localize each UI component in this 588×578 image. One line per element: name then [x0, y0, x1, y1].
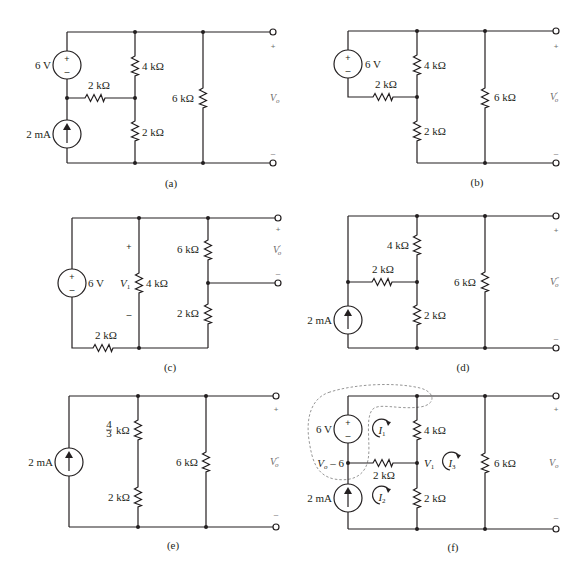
- resistor-6k-icon: [200, 85, 207, 111]
- resistor-6k-icon: [482, 269, 489, 295]
- svg-text:–: –: [554, 149, 559, 158]
- svg-text:–: –: [554, 334, 559, 343]
- label-2k-series: 2 kΩ: [88, 79, 110, 91]
- label-6v: 6 V: [35, 59, 51, 71]
- svg-text:kΩ: kΩ: [116, 424, 130, 436]
- output-terminal-minus: [275, 280, 281, 286]
- label-2k-series: 2 kΩ: [372, 263, 394, 275]
- resistor-6k-icon: [205, 237, 212, 263]
- panel-c: + – 6 V V1 + – 4 kΩ 6 kΩ 2 kΩ 2 kΩ + – V…: [58, 215, 282, 374]
- output-terminal-plus: [553, 28, 559, 34]
- label-2k-series: 2 kΩ: [375, 78, 397, 90]
- label-2ma: 2 mA: [28, 456, 53, 468]
- output-voltage-label: Vo: [549, 457, 559, 470]
- caption-a: (a): [165, 177, 178, 190]
- resistor-6k-icon: [482, 450, 489, 476]
- output-terminal-minus: [270, 160, 276, 166]
- output-voltage-label: V′o: [273, 243, 282, 257]
- current-source-icon: [55, 448, 83, 476]
- output-terminal-plus: [270, 29, 276, 35]
- svg-text:I2: I2: [377, 491, 386, 505]
- svg-text:+: +: [271, 42, 276, 51]
- caption-c: (c): [164, 361, 177, 374]
- voltage-source-icon: + –: [334, 50, 362, 78]
- svg-text:+: +: [345, 53, 350, 63]
- resistor-6k-icon: [203, 449, 210, 475]
- svg-text:+: +: [276, 225, 281, 234]
- label-6k: 6 kΩ: [177, 243, 199, 255]
- output-voltage-label: V′o: [550, 90, 559, 104]
- label-2ma: 2 mA: [307, 492, 332, 504]
- current-source-icon: [334, 484, 362, 512]
- svg-text:+: +: [554, 226, 559, 235]
- svg-text:–: –: [554, 513, 559, 522]
- label-6k: 6 kΩ: [172, 92, 194, 104]
- resistor-2k-bottom-icon: [414, 118, 421, 144]
- svg-text:–: –: [345, 431, 350, 441]
- svg-text:I1: I1: [377, 424, 386, 438]
- svg-text:–: –: [64, 67, 69, 77]
- svg-text:–: –: [274, 510, 279, 519]
- circuit-figure: + – 6 V 2 mA 2 kΩ 4 kΩ 2 kΩ 6 kΩ + – Vo …: [0, 0, 588, 578]
- label-6v: 6 V: [316, 423, 332, 435]
- label-4k: 4 kΩ: [142, 60, 164, 72]
- svg-text:–: –: [126, 310, 131, 320]
- output-voltage-label: Vo: [270, 92, 280, 105]
- output-terminal-minus: [553, 160, 559, 166]
- resistor-2k-right-icon: [205, 301, 212, 327]
- output-terminal-plus: [275, 215, 281, 221]
- svg-text:+: +: [126, 242, 131, 252]
- resistor-4k-icon: [414, 417, 421, 443]
- label-2k-bottom: 2 kΩ: [424, 492, 446, 504]
- resistor-2k-series-icon: [370, 94, 396, 101]
- output-voltage-label: V″o: [270, 455, 279, 469]
- resistor-2k-bottom-icon: [414, 485, 421, 511]
- node-label-vo-minus-6: Vo – 6: [317, 457, 344, 471]
- caption-d: (d): [457, 361, 470, 374]
- label-2k-series: 2 kΩ: [95, 329, 117, 341]
- caption-f: (f): [448, 541, 459, 554]
- output-terminal-minus: [553, 526, 559, 532]
- label-2ma: 2 mA: [26, 128, 51, 140]
- svg-text:3: 3: [106, 427, 112, 439]
- current-source-icon: [334, 306, 362, 334]
- resistor-2k-series-icon: [369, 279, 395, 286]
- label-6v: 6 V: [365, 58, 381, 70]
- label-2k: 2 kΩ: [108, 491, 130, 503]
- node-voltage-v1: V1: [120, 277, 131, 291]
- voltage-source-icon: + –: [53, 51, 81, 79]
- output-terminal-minus: [553, 345, 559, 351]
- resistor-4k-icon: [414, 232, 421, 258]
- label-4k: 4 kΩ: [424, 424, 446, 436]
- resistor-2k-series-icon: [370, 460, 396, 467]
- svg-text:–: –: [276, 269, 281, 278]
- resistor-4k-icon: [132, 53, 139, 79]
- label-2k-bottom: 2 kΩ: [424, 309, 446, 321]
- panel-e: 2 mA 4 3 kΩ 2 kΩ 6 kΩ + – V″o (e): [28, 393, 279, 552]
- resistor-4k-icon: [414, 52, 421, 78]
- label-6v: 6 V: [88, 277, 104, 289]
- svg-text:I3: I3: [447, 457, 456, 471]
- label-2k-bottom: 2 kΩ: [142, 126, 164, 138]
- mesh-current-i3-icon: I3: [443, 452, 461, 471]
- resistor-2k-bottom-icon: [414, 302, 421, 328]
- resistor-4k-icon: [136, 270, 143, 296]
- svg-text:–: –: [69, 285, 74, 295]
- caption-e: (e): [167, 539, 180, 552]
- svg-text:–: –: [271, 149, 276, 158]
- label-6k: 6 kΩ: [454, 276, 476, 288]
- output-terminal-plus: [273, 393, 279, 399]
- output-voltage-label: V″o: [550, 275, 559, 289]
- label-2k-series: 2 kΩ: [373, 469, 395, 481]
- resistor-6k-icon: [482, 85, 489, 111]
- resistor-4-3k-icon: [135, 417, 142, 443]
- mesh-current-i2-icon: I2: [373, 486, 391, 505]
- svg-text:+: +: [345, 418, 350, 428]
- caption-b: (b): [471, 176, 484, 189]
- label-4-3-kohm: 4 3 kΩ: [106, 418, 130, 439]
- node-label-v1: V1: [424, 457, 435, 471]
- label-2k-bottom: 2 kΩ: [424, 125, 446, 137]
- svg-text:+: +: [64, 54, 69, 64]
- voltage-source-icon: + –: [334, 415, 362, 443]
- svg-text:+: +: [69, 272, 74, 282]
